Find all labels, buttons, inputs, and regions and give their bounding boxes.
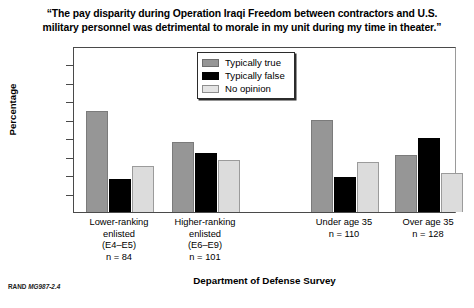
y-tick-mark-80 — [66, 65, 73, 66]
source-note: RAND MG987-2.4 — [8, 283, 60, 290]
x-group-label-2-line-2: enlisted — [145, 229, 265, 241]
x-group-label-2: Higher-rankingenlisted(E6–E9)n = 101 — [145, 217, 265, 263]
chart-legend: Typically trueTypically falseNo opinion — [197, 52, 295, 99]
x-group-label-4: Over age 35n = 128 — [368, 217, 474, 240]
bar-group-4-true — [395, 155, 417, 212]
bar-group-1-false — [109, 179, 131, 212]
legend-swatch-noop — [202, 85, 219, 93]
y-tick-mark-30 — [66, 158, 73, 159]
x-axis-title: Department of Defense Survey — [73, 275, 456, 286]
y-tick-mark-60 — [66, 102, 73, 103]
legend-label-true: Typically true — [225, 57, 281, 68]
y-tick-mark-50 — [66, 121, 73, 122]
y-axis-title: Percentage — [7, 65, 18, 155]
source-note-prefix: RAND — [8, 283, 28, 290]
y-tick-mark-70 — [66, 84, 73, 85]
legend-item-true: Typically true — [202, 56, 285, 69]
legend-label-noop: No opinion — [225, 83, 271, 94]
bar-group-2-false — [195, 153, 217, 212]
bar-group-2-true — [172, 142, 194, 212]
bar-group-3-false — [334, 177, 356, 212]
bar-group-1-true — [86, 111, 108, 212]
x-group-label-2-line-3: (E6–E9) — [145, 240, 265, 252]
bar-group-2-noop — [218, 160, 240, 212]
x-group-label-2-line-1: Higher-ranking — [145, 217, 265, 229]
bar-group-1-noop — [132, 166, 154, 212]
source-note-id: MG987-2.4 — [28, 283, 60, 290]
legend-item-noop: No opinion — [202, 82, 285, 95]
legend-item-false: Typically false — [202, 69, 285, 82]
bar-group-4-false — [418, 138, 440, 212]
y-tick-mark-40 — [66, 139, 73, 140]
chart-title-line-2: military personnel was detrimental to mo… — [22, 21, 462, 35]
x-group-label-4-line-1: Over age 35 — [368, 217, 474, 229]
x-group-label-4-line-2: n = 128 — [368, 229, 474, 241]
y-tick-mark-10 — [66, 195, 73, 196]
legend-label-false: Typically false — [225, 70, 285, 81]
bar-group-4-noop — [441, 173, 463, 212]
x-group-label-2-line-4: n = 101 — [145, 252, 265, 264]
bar-group-3-noop — [357, 162, 379, 212]
chart-title-line-1: “The pay disparity during Operation Iraq… — [22, 7, 462, 21]
y-tick-mark-20 — [66, 176, 73, 177]
bar-group-3-true — [311, 120, 333, 212]
chart-title: “The pay disparity during Operation Iraq… — [22, 7, 462, 34]
legend-swatch-false — [202, 72, 219, 80]
legend-swatch-true — [202, 59, 219, 67]
